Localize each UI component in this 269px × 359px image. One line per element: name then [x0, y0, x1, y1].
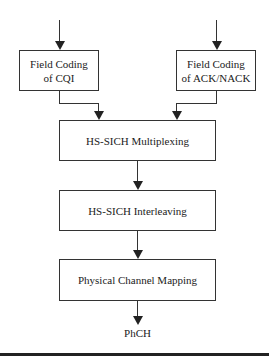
- cqi-line1: Field Coding: [30, 57, 88, 71]
- arrow-down-icon: [55, 41, 65, 50]
- connector-cqi-horizontal: [59, 103, 99, 104]
- mapping-label: Physical Channel Mapping: [78, 273, 197, 287]
- cqi-line2: of CQI: [30, 71, 88, 85]
- acknack-line2: of ACK/NACK: [182, 71, 251, 85]
- arrow-down-icon: [94, 111, 104, 120]
- connector-acknack-down: [176, 103, 177, 111]
- connector-interleave-mapping: [137, 231, 138, 251]
- arrow-down-icon: [212, 41, 222, 50]
- connector-cqi-down: [98, 103, 99, 111]
- arrow-down-icon: [133, 181, 143, 190]
- connector-mux-interleave: [137, 161, 138, 182]
- bottom-rule: [0, 353, 269, 356]
- physical-channel-mapping-box: Physical Channel Mapping: [59, 259, 216, 301]
- field-coding-cqi-box: Field Coding of CQI: [19, 50, 99, 91]
- hs-sich-interleaving-box: HS-SICH Interleaving: [59, 190, 216, 231]
- arrow-down-icon: [172, 111, 182, 120]
- input-line-left: [59, 20, 60, 42]
- acknack-line1: Field Coding: [182, 57, 251, 71]
- connector-mapping-output: [137, 301, 138, 317]
- connector-acknack-horizontal: [176, 103, 217, 104]
- output-label-phch: PhCH: [112, 327, 163, 339]
- interleaving-label: HS-SICH Interleaving: [88, 204, 187, 218]
- arrow-down-icon: [133, 316, 143, 325]
- arrow-down-icon: [133, 250, 143, 259]
- hs-sich-multiplexing-box: HS-SICH Multiplexing: [59, 120, 216, 161]
- multiplexing-label: HS-SICH Multiplexing: [86, 134, 189, 148]
- field-coding-acknack-box: Field Coding of ACK/NACK: [176, 50, 256, 91]
- input-line-right: [216, 20, 217, 42]
